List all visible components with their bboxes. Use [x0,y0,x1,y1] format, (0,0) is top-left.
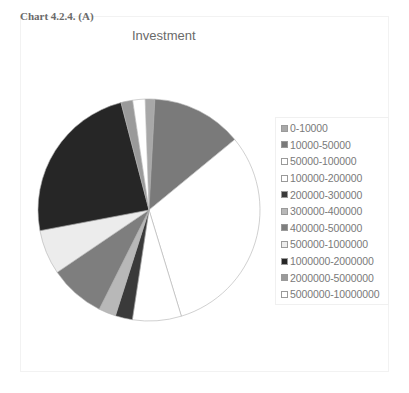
legend-swatch [281,191,288,198]
legend-swatch [281,125,288,132]
legend-label: 5000000-10000000 [290,288,380,300]
legend-label: 400000-500000 [290,222,362,234]
legend-item: 100000-200000 [276,170,388,187]
legend-swatch [281,208,288,215]
legend-item: 1000000-2000000 [276,253,388,270]
legend-swatch [281,274,288,281]
legend-swatch [281,258,288,265]
legend-item: 5000000-10000000 [276,286,388,303]
legend-swatch [281,158,288,165]
legend-item: 300000-400000 [276,203,388,220]
legend-swatch [281,291,288,298]
legend-label: 0-10000 [290,122,328,134]
legend-item: 200000-300000 [276,186,388,203]
legend-item: 10000-50000 [276,137,388,154]
legend-swatch [281,241,288,248]
legend-item: 2000000-5000000 [276,269,388,286]
legend-item: 0-10000 [276,120,388,137]
legend-label: 50000-100000 [290,155,357,167]
legend-label: 500000-1000000 [290,238,368,250]
legend-item: 400000-500000 [276,220,388,237]
legend-item: 50000-100000 [276,153,388,170]
legend-label: 300000-400000 [290,205,362,217]
legend: 0-10000 10000-50000 50000-100000 100000-… [275,117,389,305]
legend-label: 10000-50000 [290,139,351,151]
legend-swatch [281,141,288,148]
legend-swatch [281,175,288,182]
legend-label: 100000-200000 [290,172,362,184]
legend-label: 200000-300000 [290,189,362,201]
legend-label: 1000000-2000000 [290,255,374,267]
legend-item: 500000-1000000 [276,236,388,253]
legend-label: 2000000-5000000 [290,272,374,284]
legend-swatch [281,224,288,231]
